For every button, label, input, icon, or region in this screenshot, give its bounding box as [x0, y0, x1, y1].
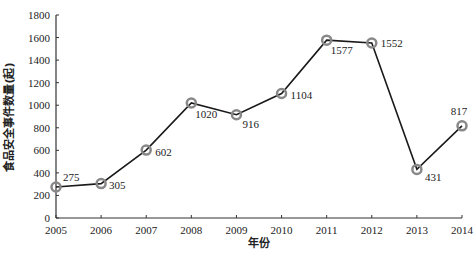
data-label: 275 [63, 171, 80, 183]
x-tick-label: 2010 [271, 224, 294, 236]
y-tick-label: 0 [45, 212, 51, 224]
line-chart: 020040060080010001200140016001800 200520… [0, 0, 476, 259]
x-axis: 2005200620072008200920102011201220132014 [45, 215, 474, 236]
y-tick-label: 1800 [28, 9, 51, 21]
y-tick-label: 600 [34, 144, 51, 156]
x-tick-label: 2014 [451, 224, 474, 236]
x-tick-label: 2011 [316, 224, 338, 236]
x-tick-label: 2005 [45, 224, 68, 236]
data-label: 602 [155, 146, 172, 158]
data-label: 817 [451, 105, 468, 117]
y-tick-label: 1000 [28, 99, 51, 111]
x-axis-title: 年份 [248, 236, 271, 250]
y-tick-label: 200 [34, 189, 51, 201]
series-line [56, 40, 462, 187]
x-tick-label: 2009 [225, 224, 248, 236]
x-tick-label: 2006 [90, 224, 113, 236]
data-label: 1104 [291, 89, 313, 101]
data-label: 305 [109, 179, 126, 191]
data-label: 916 [242, 118, 259, 130]
data-label: 431 [425, 171, 442, 183]
y-tick-label: 1600 [28, 32, 51, 44]
data-series: 2753056021020916110415771552431817 [52, 36, 468, 192]
x-tick-label: 2012 [361, 224, 383, 236]
data-label: 1020 [195, 108, 218, 120]
y-tick-label: 400 [34, 167, 51, 179]
x-tick-label: 2008 [180, 224, 203, 236]
data-label: 1577 [331, 44, 354, 56]
y-tick-label: 1200 [28, 77, 51, 89]
y-tick-label: 1400 [28, 54, 51, 66]
data-label: 1552 [381, 37, 403, 49]
x-tick-label: 2013 [406, 224, 429, 236]
x-tick-label: 2007 [135, 224, 158, 236]
y-tick-label: 800 [34, 122, 51, 134]
y-axis-title: 食品安全事件数量(起) [2, 62, 16, 171]
